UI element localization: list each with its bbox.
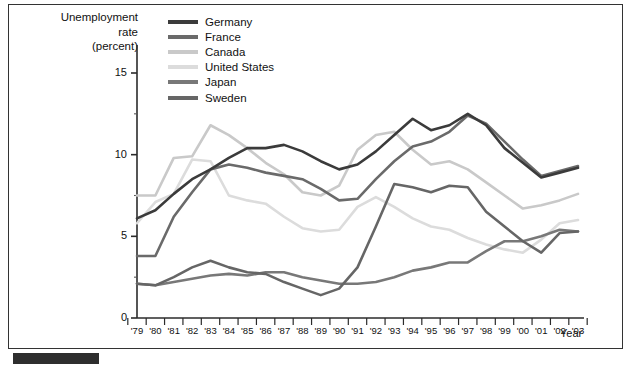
y-tick-label: 5 — [101, 229, 127, 241]
x-axis-title: Year — [560, 327, 582, 339]
series-line-germany — [137, 114, 578, 219]
series-line-canada — [137, 125, 578, 208]
line-chart-plot — [0, 0, 633, 370]
y-tick-label: 15 — [101, 66, 127, 78]
y-tick-label: 0 — [101, 311, 127, 323]
series-line-japan — [137, 230, 578, 286]
y-tick-label: 10 — [101, 148, 127, 160]
